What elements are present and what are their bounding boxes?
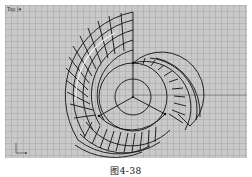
wireframe-curves [65, 12, 204, 157]
figure-caption: 图4-38 [0, 164, 252, 177]
world-axes-icon [14, 141, 28, 155]
spiral-wireframe-model [0, 0, 252, 177]
selection-highlight [76, 33, 115, 100]
